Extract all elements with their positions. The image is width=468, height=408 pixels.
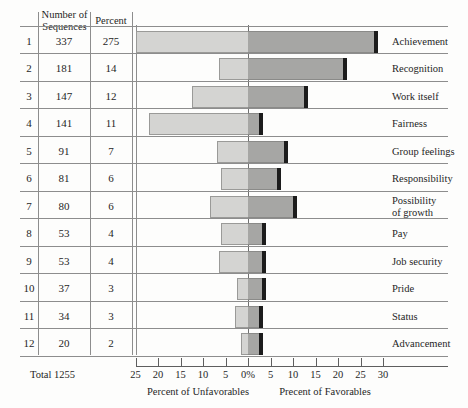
table-rule: [20, 328, 448, 329]
row-percent: 2: [90, 330, 132, 358]
category-label-line: Group feelings: [392, 146, 468, 158]
table-row[interactable]: 9534Job security: [0, 248, 468, 276]
table-row[interactable]: 1337275Achievement: [0, 28, 468, 56]
category-label: Pride: [392, 283, 468, 295]
favorable-bar: [248, 141, 284, 163]
category-label-line: Work itself: [392, 91, 468, 103]
row-index: 9: [20, 248, 38, 276]
row-number-of-sequences: 181: [38, 55, 90, 83]
row-index: 5: [20, 138, 38, 166]
row-percent: 6: [90, 165, 132, 193]
diverging-bar-chart-figure: Number of Sequences Percent 1337275Achie…: [0, 0, 468, 408]
table-row[interactable]: 12202Advancement: [0, 330, 468, 358]
row-number-of-sequences: 80: [38, 193, 90, 221]
unfavorable-bar: [241, 333, 248, 355]
row-percent: 4: [90, 248, 132, 276]
unfavorable-bar: [237, 278, 248, 300]
row-index: 11: [20, 303, 38, 331]
table-rule: [20, 81, 448, 82]
category-label: Responsibility: [392, 173, 468, 185]
row-number-of-sequences: 81: [38, 165, 90, 193]
row-index: 6: [20, 165, 38, 193]
category-label-line: of growth: [392, 207, 468, 219]
x-axis-tick: [361, 358, 362, 366]
row-percent: 275: [90, 28, 132, 56]
unfavorable-bar: [219, 251, 248, 273]
category-label-line: Responsibility: [392, 173, 468, 185]
row-percent: 3: [90, 275, 132, 303]
table-rule: [20, 108, 448, 109]
favorable-bar: [248, 223, 262, 245]
table-row[interactable]: 10373Pride: [0, 275, 468, 303]
row-number-of-sequences: 91: [38, 138, 90, 166]
row-index: 12: [20, 330, 38, 358]
favorable-bar: [248, 113, 259, 135]
table-rule: [20, 246, 448, 247]
table-row[interactable]: 414111Fairness: [0, 110, 468, 138]
row-index: 8: [20, 220, 38, 248]
favorable-bar: [248, 251, 262, 273]
favorable-bar: [248, 31, 374, 53]
x-axis-tick: [316, 358, 317, 366]
category-label: Job security: [392, 256, 468, 268]
row-number-of-sequences: 141: [38, 110, 90, 138]
category-label-line: Recognition: [392, 63, 468, 75]
unfavorable-bar: [217, 141, 249, 163]
category-label: Possibilityof growth: [392, 195, 468, 219]
x-axis-tick: [203, 358, 204, 366]
x-axis-tick: [158, 358, 159, 366]
row-percent: 4: [90, 220, 132, 248]
row-index: 3: [20, 83, 38, 111]
unfavorable-bar: [192, 86, 248, 108]
category-label: Status: [392, 311, 468, 323]
unfavorable-bar: [219, 58, 248, 80]
category-label-line: Status: [392, 311, 468, 323]
table-rule: [20, 163, 448, 164]
x-axis-tick: [248, 358, 249, 366]
x-axis-tick: [226, 358, 227, 366]
table-row[interactable]: 6816Responsibility: [0, 165, 468, 193]
table-row[interactable]: 11343Status: [0, 303, 468, 331]
table-rule: [20, 26, 448, 27]
row-percent: 11: [90, 110, 132, 138]
table-row[interactable]: 5917Group feelings: [0, 138, 468, 166]
x-axis-tick: [338, 358, 339, 366]
axis-title-unfavorables: Percent of Unfavorables: [128, 386, 268, 397]
row-number-of-sequences: 53: [38, 248, 90, 276]
table-row[interactable]: 218114Recognition: [0, 55, 468, 83]
x-axis-tick: [136, 358, 137, 366]
column-header-sequences-line1: Number of: [40, 9, 89, 21]
favorable-bar: [248, 168, 277, 190]
category-label-line: Job security: [392, 256, 468, 268]
axis-title-favorables: Precent of Favorables: [250, 386, 400, 397]
favorable-bar: [248, 278, 262, 300]
row-percent: 7: [90, 138, 132, 166]
favorable-bar: [248, 86, 304, 108]
table-rule: [20, 218, 448, 219]
category-label-line: Pride: [392, 283, 468, 295]
table-rule: [20, 356, 448, 357]
unfavorable-bar: [221, 168, 248, 190]
category-label: Group feelings: [392, 146, 468, 158]
row-number-of-sequences: 20: [38, 330, 90, 358]
category-label: Achievement: [392, 36, 468, 48]
x-axis-tick: [271, 358, 272, 366]
favorable-bar: [248, 58, 343, 80]
row-index: 4: [20, 110, 38, 138]
table-rule: [20, 191, 448, 192]
row-number-of-sequences: 37: [38, 275, 90, 303]
table-row[interactable]: 8534Pay: [0, 220, 468, 248]
row-number-of-sequences: 53: [38, 220, 90, 248]
table-rule: [20, 273, 448, 274]
row-index: 7: [20, 193, 38, 221]
table-row[interactable]: 314712Work itself: [0, 83, 468, 111]
category-label: Pay: [392, 228, 468, 240]
category-label-line: Possibility: [392, 195, 468, 207]
unfavorable-bar: [221, 223, 248, 245]
table-row[interactable]: 7806Possibilityof growth: [0, 193, 468, 221]
row-index: 2: [20, 55, 38, 83]
x-axis-line: [136, 366, 448, 367]
table-rule: [20, 136, 448, 137]
category-label-line: Fairness: [392, 118, 468, 130]
x-axis-tick: [181, 358, 182, 366]
